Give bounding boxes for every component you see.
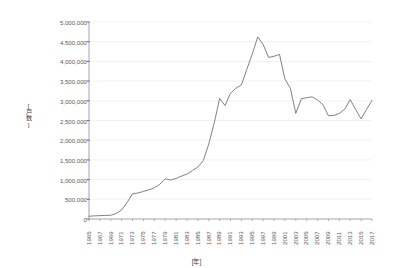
- x-tick-label: 2001: [282, 223, 288, 245]
- x-tick-label: 2013: [347, 223, 353, 245]
- x-tick-label: 1999: [271, 223, 277, 245]
- x-tick-label: 1973: [129, 223, 135, 245]
- x-axis-title: [年]: [0, 250, 393, 268]
- x-tick-label: 2015: [358, 223, 364, 245]
- x-tick-label: 1987: [206, 223, 212, 245]
- x-tick-label: 1993: [238, 223, 244, 245]
- x-tick-label: 2003: [293, 223, 299, 245]
- x-axis-title-text: [年]: [192, 258, 202, 265]
- x-tick-label: 1983: [184, 223, 190, 245]
- y-axis-title-text: [戸数]: [25, 102, 31, 128]
- x-tick-label: 2007: [314, 223, 320, 245]
- y-axis-title: [戸数]: [20, 92, 36, 138]
- x-tick-label: 1995: [249, 223, 255, 245]
- x-tick-label: 1985: [195, 223, 201, 245]
- x-tick-label: 1971: [118, 223, 124, 245]
- x-tick-label: 1981: [173, 223, 179, 245]
- x-tick-label: 2011: [336, 223, 342, 245]
- x-tick-label: 1965: [86, 223, 92, 245]
- x-tick-label: 1975: [140, 223, 146, 245]
- x-tick-label: 1997: [260, 223, 266, 245]
- x-tick-label: 2009: [325, 223, 331, 245]
- x-tick-label: 2005: [303, 223, 309, 245]
- x-tick-label: 1969: [108, 223, 114, 245]
- x-tick-label: 2017: [369, 223, 375, 245]
- x-tick-label: 1977: [151, 223, 157, 245]
- x-tick-label: 1989: [216, 223, 222, 245]
- x-tick-label: 1991: [227, 223, 233, 245]
- x-tick-label: 1967: [97, 223, 103, 245]
- x-tick-label: 1979: [162, 223, 168, 245]
